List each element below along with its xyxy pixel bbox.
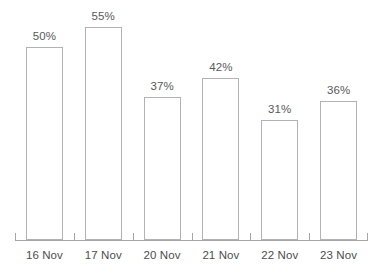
bar-rect[interactable] <box>261 120 298 240</box>
x-axis-label-4: 22 Nov <box>250 249 309 261</box>
x-axis-category-labels: 16 Nov 17 Nov 20 Nov 21 Nov 22 Nov 23 No… <box>15 249 368 261</box>
bar-value-label: 37% <box>133 80 192 93</box>
bar-rect[interactable] <box>26 47 63 240</box>
bar-value-label: 36% <box>309 84 368 97</box>
x-axis-tick <box>309 233 310 240</box>
bar-slot-0[interactable]: 50% <box>15 8 74 240</box>
x-axis-tick <box>133 233 134 240</box>
x-axis-tick <box>250 233 251 240</box>
x-axis-label-1: 17 Nov <box>74 249 133 261</box>
bar-slot-2[interactable]: 37% <box>133 8 192 240</box>
bar-slot-3[interactable]: 42% <box>191 8 250 240</box>
x-axis-tick <box>15 233 16 240</box>
bar-value-label: 31% <box>250 103 309 116</box>
bar-rect[interactable] <box>85 27 122 240</box>
bar-rect[interactable] <box>202 78 239 240</box>
x-axis-tick <box>192 233 193 240</box>
x-axis-tick <box>74 233 75 240</box>
plot-area: 50% 55% 37% 42% 31% 36% <box>15 8 368 240</box>
x-axis-label-0: 16 Nov <box>15 249 74 261</box>
bar-value-label: 55% <box>74 10 133 23</box>
bars-row: 50% 55% 37% 42% 31% 36% <box>15 8 368 240</box>
bar-chart: 50% 55% 37% 42% 31% 36% <box>0 0 375 277</box>
x-axis-label-3: 21 Nov <box>191 249 250 261</box>
bar-value-label: 42% <box>191 61 250 74</box>
bar-slot-5[interactable]: 36% <box>309 8 368 240</box>
x-axis-label-5: 23 Nov <box>309 249 368 261</box>
bar-rect[interactable] <box>144 97 181 240</box>
x-axis-line <box>15 240 368 241</box>
bar-slot-1[interactable]: 55% <box>74 8 133 240</box>
x-axis-tick <box>367 233 368 240</box>
bar-value-label: 50% <box>15 30 74 43</box>
bar-rect[interactable] <box>320 101 357 240</box>
bar-slot-4[interactable]: 31% <box>250 8 309 240</box>
x-axis-label-2: 20 Nov <box>133 249 192 261</box>
x-axis-ticks <box>15 233 368 240</box>
